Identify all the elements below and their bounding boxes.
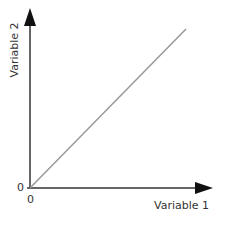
y-axis-label: Variable 2: [7, 20, 21, 80]
y-axis-arrow-icon: [24, 8, 36, 26]
x-axis: [27, 182, 213, 194]
y-axis-label-text: Variable 2: [8, 22, 21, 77]
x-axis-arrow-icon: [195, 182, 213, 194]
x-origin-label: 0: [27, 193, 34, 206]
data-line: [30, 29, 186, 188]
x-axis-label: Variable 1: [154, 199, 209, 212]
y-axis: [24, 8, 36, 188]
y-origin-label: 0: [17, 181, 24, 194]
